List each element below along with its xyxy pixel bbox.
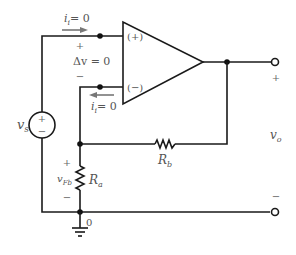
feedback-voltage-minus: − [63, 192, 71, 203]
delta-v-label: Δv = 0 [73, 55, 110, 68]
bottom-current-label: ii= 0 [91, 100, 117, 115]
source-plus: + [38, 113, 46, 124]
delta-v-minus: − [76, 71, 84, 82]
resistor-rb-zigzag [155, 140, 175, 148]
output-plus: + [272, 72, 280, 83]
op-amp-circuit-diagram: + − vs (+) (−) ii= 0 ii= 0 + Δv = 0 − + … [0, 0, 296, 255]
top-current-label: ii= 0 [64, 12, 90, 27]
bottom-current-arrow-icon [89, 92, 114, 98]
source-minus: − [38, 126, 46, 137]
resistor-rb-label: Rb [157, 153, 172, 169]
top-current-arrow-icon [62, 27, 88, 33]
output-voltage-label: vo [270, 128, 282, 144]
op-amp-minus-input-label: (−) [127, 82, 143, 93]
minus-input-node [97, 84, 103, 90]
source-bottom-wire [42, 138, 270, 212]
op-amp-plus-input-label: (+) [127, 31, 143, 42]
voltage-source: + − [29, 112, 55, 138]
resistor-ra-label: Ra [88, 173, 103, 189]
feedback-node [77, 141, 83, 147]
feedback-voltage-label: vFb [57, 173, 73, 187]
delta-v-plus: + [76, 40, 84, 51]
feedback-voltage-plus: + [63, 157, 71, 168]
ground-node-label: 0 [86, 217, 92, 228]
resistor-ra-zigzag [76, 166, 84, 190]
output-terminal-plus[interactable] [272, 59, 279, 66]
source-label: vs [17, 117, 29, 134]
plus-input-node [97, 33, 103, 39]
output-minus: − [272, 191, 280, 202]
output-terminal-minus[interactable] [272, 209, 279, 216]
